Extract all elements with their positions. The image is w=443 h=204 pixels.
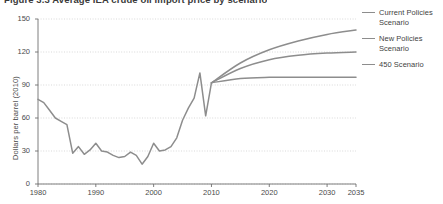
x-tick-label: 2035 [336,189,376,197]
x-tick-label: 2020 [249,189,289,197]
y-tick-label: 60 [6,114,30,122]
legend-item-new_policies[interactable]: New Policies Scenario [362,34,443,53]
series-line-scenario_450 [211,77,356,83]
legend-line-icon [362,12,375,13]
legend-item-label: New Policies Scenario [379,34,423,53]
legend-item-scenario_450[interactable]: 450 Scenario [362,60,443,70]
y-tick-label: 120 [6,48,30,56]
y-tick-label: 0 [6,180,30,188]
y-tick-label: 30 [6,147,30,155]
chart-legend: Current Policies ScenarioNew Policies Sc… [362,8,443,77]
legend-item-current_policies[interactable]: Current Policies Scenario [362,8,443,27]
y-tick-label: 150 [6,15,30,23]
series-line-historical [38,73,211,164]
legend-item-label: 450 Scenario [379,60,424,69]
x-tick-label: 1990 [76,189,116,197]
chart-figure: Figure 3.3 Average IEA crude oil import … [0,0,443,204]
legend-line-icon [362,38,375,39]
x-tick-label: 2010 [191,189,231,197]
x-tick-label: 1980 [18,189,58,197]
legend-line-icon [362,64,375,65]
y-tick-label: 90 [6,81,30,89]
legend-item-label: Current Policies Scenario [379,8,433,27]
x-tick-label: 2000 [134,189,174,197]
